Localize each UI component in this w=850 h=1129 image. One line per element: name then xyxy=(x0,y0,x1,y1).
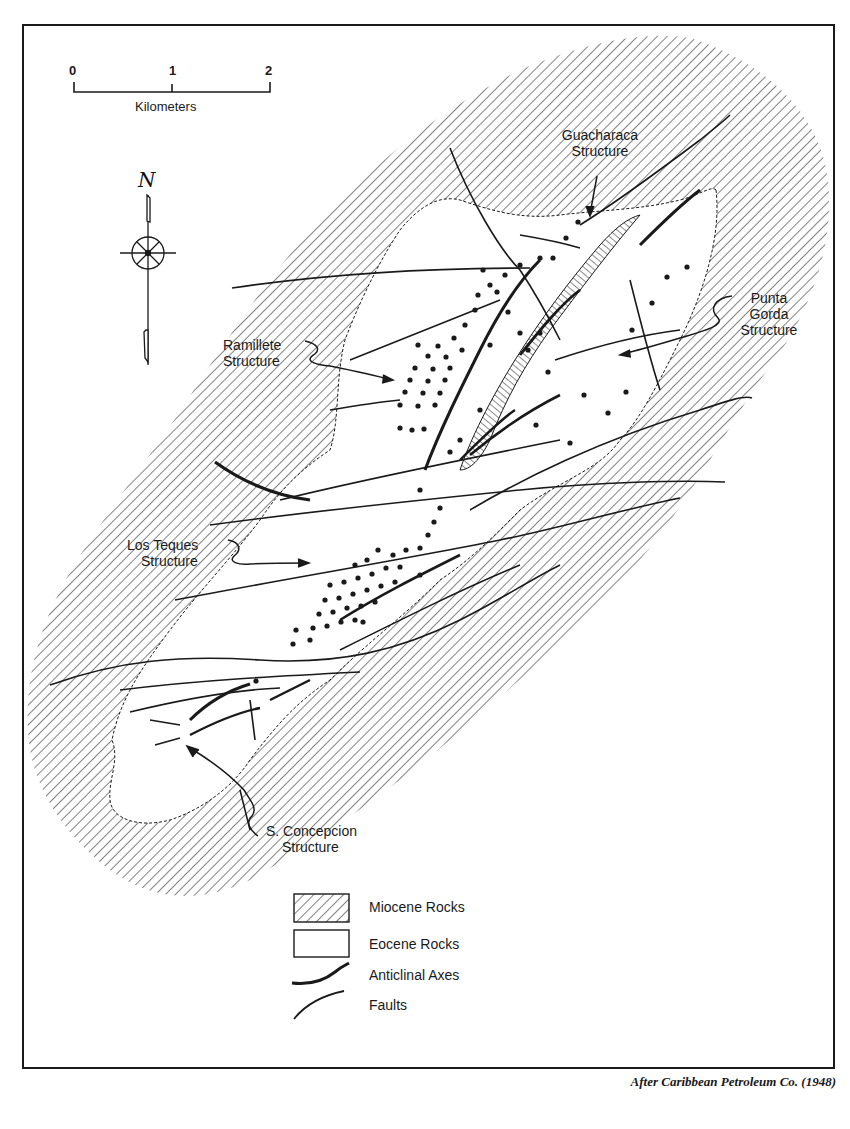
north-arrow-icon xyxy=(120,195,176,365)
legend-swatch-fault xyxy=(294,991,344,1019)
label-los-teques: Los Teques Structure xyxy=(127,537,198,569)
source-credit: After Caribbean Petroleum Co. (1948) xyxy=(631,1074,836,1090)
legend-miocene: Miocene Rocks xyxy=(369,899,465,915)
legend-swatches xyxy=(292,894,349,1019)
label-punta-gorda: Punta Gorda Structure xyxy=(728,290,810,338)
legend-swatch-eocene xyxy=(294,930,349,957)
north-label: N xyxy=(138,168,156,192)
legend-fault: Faults xyxy=(369,997,407,1013)
legend-swatch-miocene xyxy=(294,894,349,922)
legend-anticline: Anticlinal Axes xyxy=(369,967,459,983)
scale-bar xyxy=(74,82,270,92)
scale-tick-1: 1 xyxy=(169,63,176,78)
legend-eocene: Eocene Rocks xyxy=(369,936,459,952)
scale-tick-2: 2 xyxy=(265,63,272,78)
label-guacharaca: Guacharaca Structure xyxy=(545,127,655,159)
scale-unit-label: Kilometers xyxy=(135,99,196,114)
scale-tick-0: 0 xyxy=(69,63,76,78)
label-ramillete: Ramillete Structure xyxy=(223,337,281,369)
label-s-concepcion: S. Concepcion Structure xyxy=(266,823,357,855)
legend-swatch-anticline xyxy=(292,963,349,983)
